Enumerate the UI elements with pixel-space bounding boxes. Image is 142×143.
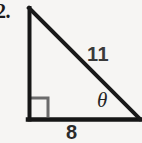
hypotenuse-length-label: 11 — [87, 44, 109, 64]
base-length-label: 8 — [66, 122, 77, 142]
angle-theta-label: θ — [97, 90, 107, 111]
right-triangle-figure: 2. 11 θ 8 — [0, 0, 142, 143]
triangle-hypotenuse — [29, 8, 140, 119]
right-angle-marker-icon — [30, 98, 48, 117]
problem-number: 2. — [0, 1, 10, 21]
